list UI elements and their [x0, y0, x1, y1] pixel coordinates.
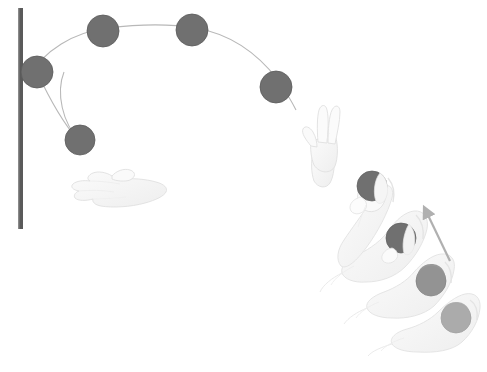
ball-arc-2 — [87, 15, 119, 47]
motion-arrow — [426, 211, 450, 261]
hand-reach-mid — [303, 106, 340, 187]
arc-ball-group — [21, 14, 292, 155]
ball-arc-3 — [176, 14, 208, 46]
ball-arc-5 — [65, 125, 95, 155]
illustration-canvas: Ball throw and pendulum arc motion study — [0, 0, 487, 372]
arc-trajectory-path — [28, 25, 296, 140]
ball-arc-4 — [260, 71, 292, 103]
ball-arc-1 — [21, 56, 53, 88]
motion-study-figure — [0, 0, 487, 372]
wall-bar — [18, 8, 23, 229]
hand-catch-left — [72, 169, 167, 207]
